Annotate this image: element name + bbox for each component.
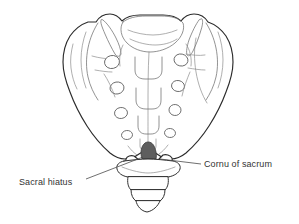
coccyx-segment-4-tip (136, 201, 160, 212)
sacrum-bone (63, 14, 233, 159)
coccyx-segment-2 (128, 177, 169, 190)
anatomical-figure: Cornu of sacrum Sacral hiatus (0, 0, 299, 224)
sacrum-illustration (0, 0, 299, 224)
coccyx-segment-1 (117, 159, 180, 177)
coccyx-bone (117, 159, 180, 212)
label-sacral-hiatus: Sacral hiatus (19, 177, 72, 188)
coccyx-segment-3 (131, 190, 165, 201)
label-cornu-of-sacrum: Cornu of sacrum (204, 159, 272, 170)
